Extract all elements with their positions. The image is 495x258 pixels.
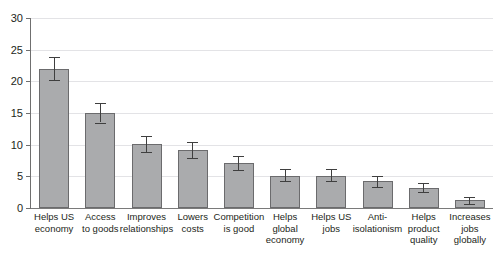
y-tick-label-20: 20 [0,76,23,87]
error-bar-cap-upper [464,197,475,198]
error-bar-cap-upper [141,136,152,137]
error-bar-cap-lower [418,192,429,193]
x-axis-label-line: globally [443,234,495,246]
error-bar-stem [469,197,470,204]
error-bar-stem [423,183,424,193]
error-bar-cap-lower [326,181,337,182]
error-bar-cap-upper [233,156,244,157]
bar[interactable] [85,113,115,208]
bar-group [85,18,115,208]
error-bar-cap-upper [418,183,429,184]
x-axis-label-line: economy [258,234,312,246]
error-bar-stem [146,136,147,152]
error-bar-cap-upper [326,169,337,170]
bar-group [39,18,69,208]
error-bar-cap-upper [95,103,106,104]
y-axis-tick-labels: 30 25 20 15 10 5 0 [0,0,24,258]
bar-group [316,18,346,208]
y-tick-label-0: 0 [0,203,23,214]
error-bar-cap-upper [187,142,198,143]
bar-group [363,18,393,208]
bar-group [224,18,254,208]
bar-group [409,18,439,208]
error-bar-cap-lower [187,158,198,159]
bar-group [132,18,162,208]
error-bar-cap-lower [280,181,291,182]
error-bar-cap-upper [49,57,60,58]
x-axis-baseline [30,208,493,209]
bar[interactable] [39,69,69,208]
error-bar-cap-lower [49,80,60,81]
error-bar-cap-lower [233,170,244,171]
error-bar-cap-lower [372,187,383,188]
error-bar-cap-lower [95,123,106,124]
y-tick-label-10: 10 [0,140,23,151]
y-tick-label-25: 25 [0,45,23,56]
error-bar-cap-upper [280,169,291,170]
error-bar-cap-lower [464,204,475,205]
y-tick-label-15: 15 [0,108,23,119]
bar-group [455,18,485,208]
error-bar-stem [331,169,332,181]
y-tick-label-5: 5 [0,171,23,182]
y-tick-mark-0 [26,208,31,209]
bar[interactable] [132,144,162,208]
x-axis-category-labels: Helps USeconomyAccessto goodsImprovesrel… [31,211,493,257]
error-bar-stem [100,103,101,123]
bar-group [178,18,208,208]
error-bar-cap-lower [141,152,152,153]
bars-layer [31,18,493,208]
error-bar-stem [285,169,286,181]
bar-group [270,18,300,208]
y-tick-label-30: 30 [0,13,23,24]
x-axis-label: Increases jobsglobally [443,211,495,246]
error-bar-stem [377,176,378,187]
error-bar-stem [54,57,55,80]
bar-chart: 30 25 20 15 10 5 0 Helps USeconomyAccess… [0,0,495,258]
x-axis-label-line: Increases jobs [443,211,495,234]
error-bar-stem [238,156,239,170]
error-bar-cap-upper [372,176,383,177]
error-bar-stem [192,142,193,158]
